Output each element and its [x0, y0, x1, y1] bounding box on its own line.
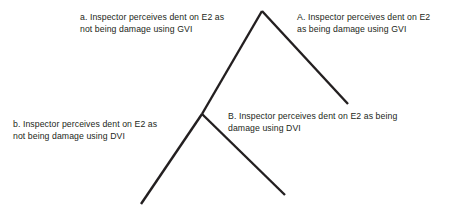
- node-label-B: B. Inspector perceives dent on E2 as bei…: [228, 110, 458, 134]
- diagram-canvas: a. Inspector perceives dent on E2 as not…: [0, 0, 474, 211]
- node-label-a: a. Inspector perceives dent on E2 as not…: [80, 11, 252, 35]
- node-label-b: b. Inspector perceives dent on E2 as not…: [13, 118, 189, 142]
- node-label-A: A. Inspector perceives dent on E2 as bei…: [297, 11, 462, 35]
